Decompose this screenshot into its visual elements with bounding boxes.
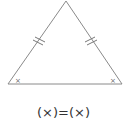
equal-angles-formula: (×)=(×) [0,105,127,120]
left-angle-mark: × [15,77,21,85]
triangle [8,1,122,84]
left-side-double-tick-mark [33,37,45,45]
right-angle-mark: × [110,77,116,85]
